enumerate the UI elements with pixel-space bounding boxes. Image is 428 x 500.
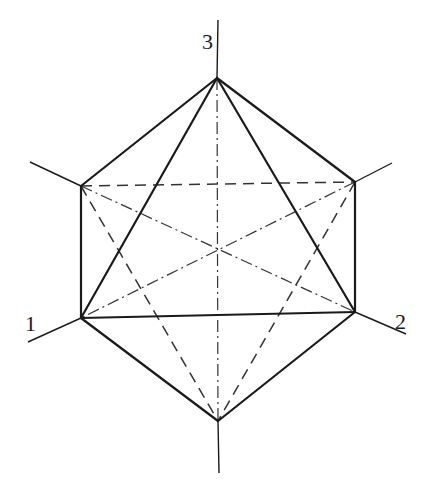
center-lines [81, 78, 355, 421]
edge-ll-lr [81, 312, 355, 318]
edge-ul-ur [81, 182, 355, 186]
axis-label-3: 3 [202, 31, 213, 53]
axis-label-2: 2 [395, 311, 406, 333]
edge-ur-bottom [218, 182, 355, 421]
edge-top-lr [217, 78, 355, 312]
axis-3-top [217, 20, 218, 78]
edge-ul-bottom [81, 186, 218, 421]
axis-upper-right-stub [355, 163, 392, 182]
edge-top-ul [81, 78, 217, 186]
axis-3-bottom [218, 421, 219, 473]
edge-top-ur [217, 78, 355, 182]
centerline-ur-ll [81, 182, 355, 318]
edge-ll-bottom [81, 318, 218, 421]
edge-lr-bottom [218, 312, 355, 421]
axis-label-1: 1 [25, 313, 36, 335]
axis-upper-left-stub [30, 162, 81, 186]
centerline-vertical [217, 78, 218, 421]
polyhedron-diagram [0, 0, 428, 500]
edge-top-ll [81, 78, 217, 318]
